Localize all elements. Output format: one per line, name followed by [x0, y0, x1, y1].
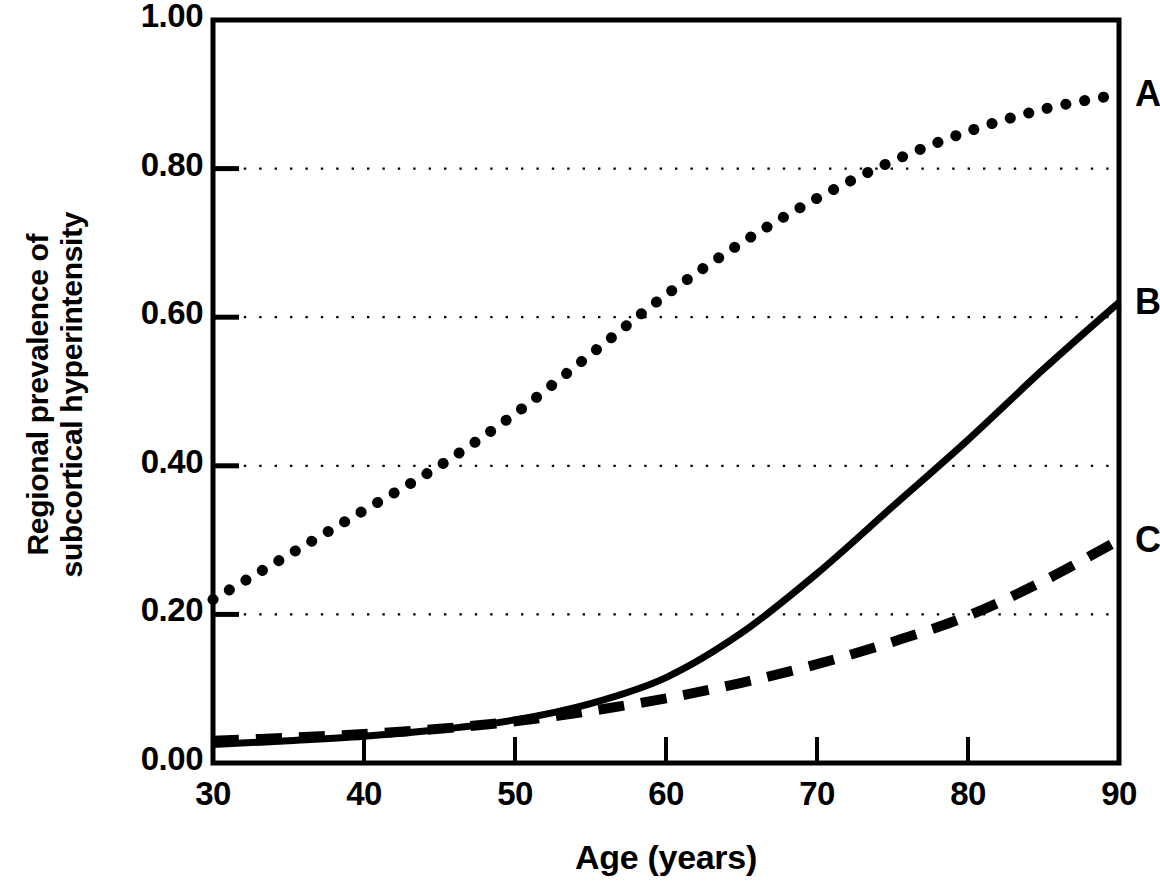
series-label-B: B: [1135, 281, 1160, 323]
series-label-A: A: [1135, 73, 1160, 115]
axis-frame: [213, 20, 1119, 763]
x-axis-title: Age (years): [213, 838, 1119, 877]
chart-figure: Regional prevalence of subcortical hyper…: [0, 0, 1160, 895]
plot-area: [0, 0, 1160, 895]
series-label-C: C: [1135, 519, 1160, 561]
series-line-C: [213, 540, 1119, 741]
series-line-A: [213, 94, 1119, 599]
